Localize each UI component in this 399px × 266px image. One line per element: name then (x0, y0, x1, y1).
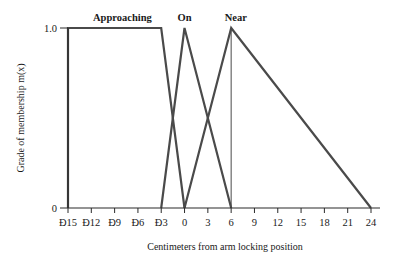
x-tick-label: 12 (273, 217, 284, 228)
x-tick-label: 6 (229, 217, 234, 228)
axes: Ð15Ð12Ð9Ð6Ð30369121518212401.0 (44, 23, 380, 228)
y-axis-title: Grade of membership m(x) (15, 63, 27, 172)
series-lines (68, 28, 371, 208)
x-tick-label: 3 (205, 217, 210, 228)
x-tick-label: Ð6 (132, 217, 145, 228)
x-tick-label: 9 (252, 217, 257, 228)
x-tick-label: Ð9 (108, 217, 121, 228)
series-on-line (161, 28, 231, 208)
fuzzy-membership-chart: Ð15Ð12Ð9Ð6Ð30369121518212401.0 Approachi… (0, 0, 399, 266)
x-tick-label: Ð15 (59, 217, 77, 228)
series-labels: ApproachingOnNear (93, 12, 247, 23)
x-tick-label: 24 (366, 217, 377, 228)
y-tick-label: 1.0 (44, 23, 57, 34)
series-approaching-line (68, 28, 185, 208)
x-tick-label: Ð12 (82, 217, 100, 228)
series-label-near: Near (225, 12, 247, 23)
x-tick-label: 18 (319, 217, 330, 228)
series-label-on: On (178, 12, 192, 23)
x-tick-label: 21 (342, 217, 353, 228)
series-label-approaching: Approaching (93, 12, 152, 23)
x-axis-title: Centimeters from arm locking position (147, 241, 303, 252)
y-tick-label: 0 (52, 203, 57, 214)
series-near-line (185, 28, 372, 208)
x-tick-label: Ð3 (155, 217, 168, 228)
x-tick-label: 0 (182, 217, 187, 228)
x-tick-label: 15 (296, 217, 307, 228)
